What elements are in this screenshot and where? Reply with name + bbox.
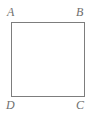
vertex-label-b: B — [76, 6, 83, 18]
vertex-label-a: A — [7, 6, 14, 18]
vertex-label-d: D — [6, 99, 15, 111]
geometry-figure: A B C D — [0, 0, 94, 117]
vertex-label-c: C — [76, 99, 84, 111]
square-outline — [11, 22, 85, 97]
